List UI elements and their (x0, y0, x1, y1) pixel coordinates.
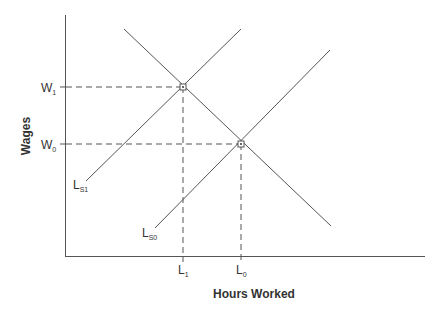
y-axis-title: Wages (19, 117, 33, 156)
supply-curve-s0 (155, 50, 330, 228)
equilibrium-point-1 (180, 84, 186, 90)
equilibrium-point-0 (238, 141, 244, 147)
label-ls0: LS0 (142, 226, 157, 241)
supply-curve-s1 (86, 29, 241, 181)
demand-curve (124, 29, 331, 226)
labor-market-diagram: W1 W0 L1 L0 LS1 LS0 Hours Worked Wages (0, 0, 445, 314)
x-axis-title: Hours Worked (213, 287, 295, 301)
x-tick-l1: L1 (178, 263, 189, 278)
y-tick-w0: W0 (41, 138, 56, 153)
y-tick-w1: W1 (41, 81, 56, 96)
x-tick-l0: L0 (236, 263, 247, 278)
